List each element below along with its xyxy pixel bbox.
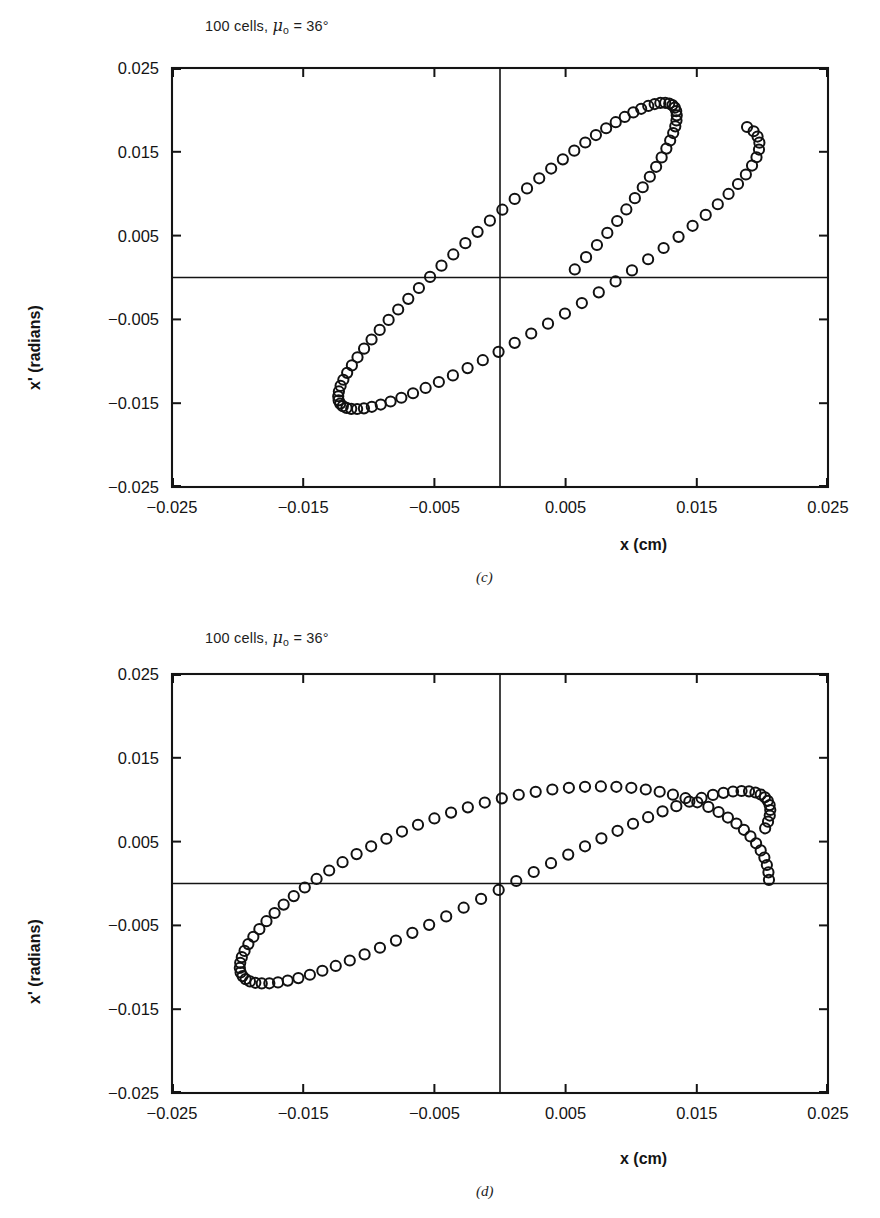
panel-d: 100 cells, μo = 36° x' (radians) −0.025−… bbox=[0, 606, 880, 1218]
x-tick-label: −0.015 bbox=[278, 498, 329, 516]
data-point bbox=[741, 169, 751, 179]
x-tick-label: 0.015 bbox=[676, 498, 717, 516]
data-point bbox=[429, 813, 439, 823]
x-tick-label: −0.025 bbox=[147, 498, 198, 516]
data-point bbox=[248, 932, 258, 942]
data-point bbox=[384, 315, 394, 325]
data-point bbox=[317, 966, 327, 976]
data-point bbox=[485, 216, 495, 226]
data-point bbox=[351, 849, 361, 859]
x-tick-label: 0.005 bbox=[545, 1104, 586, 1122]
data-point bbox=[337, 857, 347, 867]
data-point bbox=[628, 819, 638, 829]
data-point bbox=[673, 232, 683, 242]
data-point bbox=[403, 294, 413, 304]
data-point bbox=[558, 154, 568, 164]
y-tick-label: −0.025 bbox=[108, 478, 159, 496]
panel-d-plot: −0.025−0.015−0.0050.0050.0150.0250.0250.… bbox=[0, 606, 880, 1218]
y-tick-label: −0.025 bbox=[108, 1084, 159, 1102]
data-point bbox=[570, 264, 580, 274]
data-point bbox=[547, 784, 557, 794]
data-point bbox=[591, 130, 601, 140]
data-point-group bbox=[235, 781, 776, 988]
data-point bbox=[671, 801, 681, 811]
data-point bbox=[510, 338, 520, 348]
data-point bbox=[393, 304, 403, 314]
data-point bbox=[472, 227, 482, 237]
data-point bbox=[643, 254, 653, 264]
data-point bbox=[529, 867, 539, 877]
data-point bbox=[534, 173, 544, 183]
data-point bbox=[688, 221, 698, 231]
data-point bbox=[612, 216, 622, 226]
data-point bbox=[408, 388, 418, 398]
panel-d-xlabel: x (cm) bbox=[620, 1150, 667, 1168]
y-tick-label: 0.015 bbox=[118, 143, 159, 161]
panel-c-letter: (c) bbox=[476, 569, 493, 586]
data-point bbox=[643, 812, 653, 822]
x-tick-label: −0.025 bbox=[147, 1104, 198, 1122]
data-point bbox=[446, 808, 456, 818]
data-point bbox=[612, 826, 622, 836]
panel-d-letter: (d) bbox=[476, 1183, 494, 1200]
data-point bbox=[601, 123, 611, 133]
x-tick-label: 0.025 bbox=[807, 1104, 848, 1122]
x-tick-label: 0.015 bbox=[676, 1104, 717, 1122]
data-point bbox=[459, 903, 469, 913]
data-point bbox=[366, 334, 376, 344]
data-point bbox=[713, 807, 723, 817]
data-point bbox=[596, 781, 606, 791]
data-point bbox=[434, 377, 444, 387]
data-point bbox=[366, 841, 376, 851]
data-point bbox=[448, 249, 458, 259]
data-point bbox=[657, 806, 667, 816]
data-point bbox=[701, 210, 711, 220]
data-point bbox=[511, 876, 521, 886]
data-point bbox=[546, 163, 556, 173]
data-point bbox=[580, 137, 590, 147]
data-point bbox=[621, 204, 631, 214]
data-point-group bbox=[333, 98, 764, 414]
data-point bbox=[279, 900, 289, 910]
data-point bbox=[283, 976, 293, 986]
data-point bbox=[289, 891, 299, 901]
data-point bbox=[703, 802, 713, 812]
data-point bbox=[626, 783, 636, 793]
data-point bbox=[494, 885, 504, 895]
y-tick-label: 0.005 bbox=[118, 833, 159, 851]
data-point bbox=[331, 961, 341, 971]
data-point bbox=[655, 787, 665, 797]
data-point bbox=[391, 935, 401, 945]
data-point bbox=[397, 826, 407, 836]
data-point bbox=[478, 355, 488, 365]
data-point bbox=[385, 396, 395, 406]
y-tick-label: −0.005 bbox=[108, 916, 159, 934]
data-point bbox=[413, 820, 423, 830]
x-tick-label: 0.005 bbox=[545, 498, 586, 516]
data-point bbox=[460, 238, 470, 248]
data-point bbox=[708, 790, 718, 800]
data-point bbox=[668, 790, 678, 800]
data-point bbox=[396, 393, 406, 403]
y-tick-label: 0.025 bbox=[118, 59, 159, 77]
data-point bbox=[580, 782, 590, 792]
data-point bbox=[596, 833, 606, 843]
data-point bbox=[359, 344, 369, 354]
panel-c-plot: −0.025−0.015−0.0050.0050.0150.0250.0250.… bbox=[0, 0, 880, 600]
data-point bbox=[269, 908, 279, 918]
data-point bbox=[594, 287, 604, 297]
data-point bbox=[510, 194, 520, 204]
data-point bbox=[476, 894, 486, 904]
data-point bbox=[592, 240, 602, 250]
data-point bbox=[375, 943, 385, 953]
data-point bbox=[421, 383, 431, 393]
x-tick-label: 0.025 bbox=[807, 498, 848, 516]
y-tick-label: 0.025 bbox=[118, 665, 159, 683]
data-point bbox=[659, 243, 669, 253]
data-point bbox=[526, 328, 536, 338]
data-point bbox=[602, 228, 612, 238]
data-point bbox=[462, 363, 472, 373]
data-point bbox=[543, 319, 553, 329]
data-point bbox=[324, 865, 334, 875]
data-point bbox=[493, 347, 503, 357]
